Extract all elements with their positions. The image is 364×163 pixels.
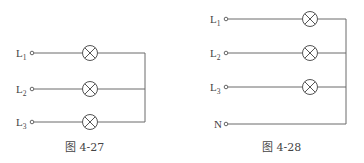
circuit-diagrams: L1 L2 L3 (0, 0, 364, 163)
figure-4-27: L1 L2 L3 (16, 46, 145, 155)
row-l1: L1 (210, 12, 346, 29)
lamp-icon (303, 46, 318, 61)
terminal-l3 (30, 120, 34, 124)
lamp-icon (83, 115, 98, 130)
row-neutral: N (214, 118, 346, 130)
terminal-label-l3: L3 (16, 116, 27, 131)
terminal-label-l1: L1 (210, 13, 221, 28)
row-l2: L2 (210, 46, 346, 63)
terminal-label-l3: L3 (210, 81, 221, 96)
row-l2: L2 (16, 82, 145, 99)
terminal-l1 (224, 17, 228, 21)
figure-caption: 图 4-28 (262, 141, 301, 154)
terminal-n (224, 122, 228, 126)
figure-caption: 图 4-27 (65, 141, 104, 154)
terminal-l2 (224, 51, 228, 55)
row-l1: L1 (16, 46, 145, 63)
terminal-label-n: N (214, 118, 222, 130)
lamp-icon (83, 82, 98, 97)
terminal-label-l2: L2 (210, 47, 221, 62)
terminal-label-l1: L1 (16, 47, 27, 62)
row-l3: L3 (16, 115, 145, 132)
figure-4-28: L1 L2 L3 (210, 12, 346, 155)
lamp-icon (83, 46, 98, 61)
terminal-l2 (30, 87, 34, 91)
lamp-icon (303, 12, 318, 27)
row-l3: L3 (210, 80, 346, 97)
terminal-l3 (224, 85, 228, 89)
terminal-l1 (30, 51, 34, 55)
terminal-label-l2: L2 (16, 83, 27, 98)
lamp-icon (303, 80, 318, 95)
